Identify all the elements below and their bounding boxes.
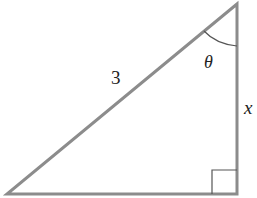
right-angle-marker: [212, 170, 237, 194]
angle-label: θ: [204, 52, 213, 72]
hypotenuse-label: 3: [111, 67, 121, 88]
angle-arc: [204, 31, 237, 46]
triangle-diagram: 3 θ x: [0, 0, 257, 198]
leg-label: x: [243, 97, 253, 118]
right-triangle: [7, 4, 237, 194]
